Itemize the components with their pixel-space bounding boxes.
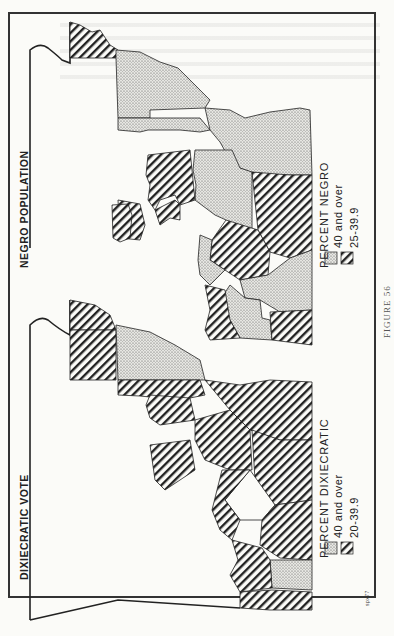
legend-label-40-and-over: 40 and over [332,184,344,248]
dixiecratic-vote-map [30,300,312,620]
legend-label-20-39: 20-39.9 [348,497,360,538]
book-page: NEGRO POPULATION DIXIECRATIC VOTE PERCEN… [0,0,394,636]
negro-population-map [30,22,312,345]
legend-swatch-hatch [341,542,353,554]
map-artwork [0,0,394,636]
credit-mark: spx77 [364,590,370,606]
map-title-dixiecratic-vote: DIXIECRATIC VOTE [18,474,30,580]
map-title-negro-population: NEGRO POPULATION [18,151,30,268]
legend-title-percent-negro: PERCENT NEGRO [318,162,330,268]
figure-caption: FIGURE 56 [382,285,392,338]
legend-label-40-and-over: 40 and over [332,474,344,538]
legend-swatch-hatch [341,252,353,264]
legend-label-25-39: 25-39.9 [348,207,360,248]
legend-title-percent-dixiecratic: PERCENT DIXIECRATIC [318,419,330,558]
